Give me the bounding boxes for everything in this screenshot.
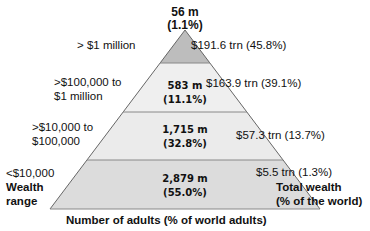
wealth-tier-4: $5.5 trn (1.3%): [256, 165, 332, 179]
range-tier-4: <$10,000: [6, 166, 54, 180]
range-tier-2: >$100,000 to: [54, 75, 121, 89]
adults-pct-tier-3: (32.8%): [150, 137, 220, 151]
total-wealth-label: Total wealth: [276, 180, 342, 194]
wealth-range-label: Wealth: [6, 180, 44, 194]
total-wealth-label-line2: (% of the world): [276, 194, 362, 208]
range-tier-3: >$10,000 to: [32, 120, 93, 134]
wealth-range-label-line2: range: [6, 194, 37, 208]
range-tier-3-line2: $100,000: [32, 134, 80, 148]
range-tier-1: > $1 million: [77, 38, 136, 52]
adults-tier-3: 1,715 m: [150, 123, 220, 137]
adults-axis-label: Number of adults (% of world adults): [66, 213, 267, 227]
adults-pct-tier-4: (55.0%): [150, 186, 220, 200]
adults-tier-4: 2,879 m: [150, 172, 220, 186]
wealth-tier-1: $191.6 trn (45.8%): [191, 38, 286, 52]
apex-count: 56 m: [160, 5, 210, 19]
range-tier-2-line2: $1 million: [54, 89, 103, 103]
wealth-tier-2: $163.9 trn (39.1%): [206, 76, 301, 90]
apex-pct: (1.1%): [155, 18, 215, 32]
wealth-tier-3: $57.3 trn (13.7%): [236, 128, 325, 142]
adults-pct-tier-2: (11.1%): [155, 93, 215, 107]
